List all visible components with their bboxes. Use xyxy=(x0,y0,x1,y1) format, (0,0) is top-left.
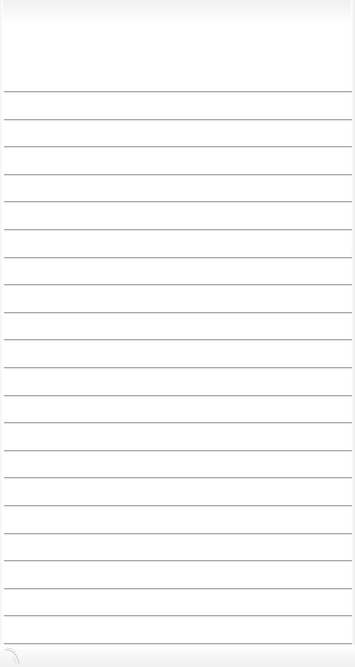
ruled-line[interactable] xyxy=(4,477,352,478)
ruled-line[interactable] xyxy=(4,560,352,561)
ruled-line[interactable] xyxy=(4,615,352,616)
ruled-line[interactable] xyxy=(4,533,352,534)
page-curl-icon[interactable] xyxy=(4,647,22,665)
ruled-line[interactable] xyxy=(4,146,352,147)
ruled-lines[interactable] xyxy=(4,0,352,667)
ruled-line[interactable] xyxy=(4,284,352,285)
ruled-line[interactable] xyxy=(4,201,352,202)
ruled-line[interactable] xyxy=(4,312,352,313)
ruled-line[interactable] xyxy=(4,450,352,451)
ruled-line[interactable] xyxy=(4,588,352,589)
ruled-line[interactable] xyxy=(4,422,352,423)
notepad-page[interactable] xyxy=(0,0,355,667)
ruled-line[interactable] xyxy=(4,229,352,230)
ruled-line[interactable] xyxy=(4,174,352,175)
page-left-edge xyxy=(0,0,3,667)
ruled-line[interactable] xyxy=(4,367,352,368)
ruled-line[interactable] xyxy=(4,339,352,340)
ruled-line[interactable] xyxy=(4,643,352,644)
ruled-line[interactable] xyxy=(4,505,352,506)
ruled-line[interactable] xyxy=(4,395,352,396)
ruled-line[interactable] xyxy=(4,119,352,120)
ruled-line[interactable] xyxy=(4,257,352,258)
ruled-line[interactable] xyxy=(4,91,352,92)
